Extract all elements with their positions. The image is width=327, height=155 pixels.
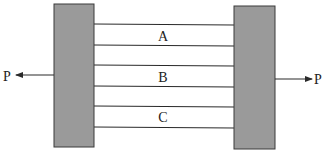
bar-c: C [94, 106, 234, 128]
right-force: P [275, 72, 322, 87]
bar-b-label: B [158, 70, 167, 85]
right-force-label: P [314, 72, 322, 87]
left-force: P [3, 69, 54, 84]
bar-c-label: C [158, 110, 167, 125]
left-force-label: P [3, 69, 11, 84]
bar-assembly-diagram: A B C P P [0, 0, 327, 155]
bar-a-label: A [158, 29, 169, 44]
right-plate [234, 6, 275, 149]
bar-b: B [94, 65, 234, 87]
left-plate [54, 4, 94, 147]
bar-a: A [94, 24, 234, 46]
